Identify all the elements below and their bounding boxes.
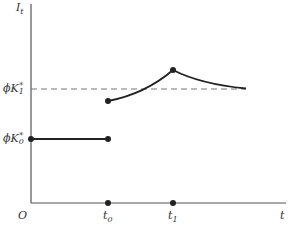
k1-scripts: *1 [19, 83, 24, 96]
t0-sub: 0 [107, 215, 112, 224]
diagram-canvas [0, 0, 291, 232]
y-axis-label: It [16, 2, 24, 16]
point-jump-t0 [105, 98, 111, 104]
rising-curve [108, 70, 173, 101]
x-axis-label: t [280, 210, 284, 221]
k0-scripts: *0 [19, 133, 24, 146]
k1-sub: 1 [19, 87, 24, 96]
tick-label-t1: t1 [168, 210, 178, 224]
k1-prefix: ϕK [3, 82, 19, 95]
investment-path-diagram: It ϕK*1 ϕK*0 O t0 t1 t [0, 0, 291, 232]
level-label-k1: ϕK*1 [3, 83, 24, 96]
point-k0-end [105, 136, 111, 142]
y-label-sub: t [20, 7, 23, 16]
origin-label: O [18, 210, 27, 221]
tick-t0 [105, 200, 111, 206]
decaying-curve [173, 70, 246, 89]
level-label-k0: ϕK*0 [3, 133, 24, 146]
k0-prefix: ϕK [3, 132, 19, 145]
t1-sub: 1 [172, 215, 177, 224]
point-k0-start [28, 136, 34, 142]
k0-sub: 0 [19, 137, 24, 146]
tick-t1 [170, 200, 176, 206]
tick-label-t0: t0 [103, 210, 113, 224]
